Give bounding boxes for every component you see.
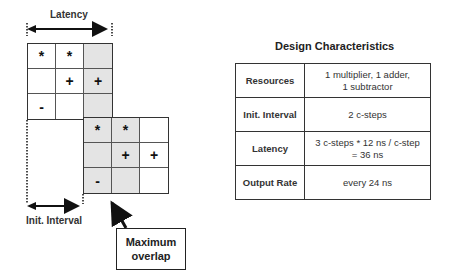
table-row: Output Rateevery 24 ns xyxy=(236,166,431,200)
grid-cell: * xyxy=(112,118,140,143)
table-row: Latency3 c-steps * 12 ns / c-step= 36 ns xyxy=(236,132,431,166)
grid-cell xyxy=(140,118,168,143)
grid-cell xyxy=(28,69,56,94)
latency-arrow-left-head xyxy=(27,25,36,33)
row-value: every 24 ns xyxy=(305,166,431,200)
grid-cell xyxy=(84,94,112,119)
table-row: Resources1 multiplier, 1 adder,1 subtrac… xyxy=(236,64,431,98)
callout-line-2: overlap xyxy=(117,249,185,263)
grid-cell: - xyxy=(84,168,112,193)
grid-cell: + xyxy=(56,69,84,94)
grid-cell: + xyxy=(112,143,140,168)
grid-cell: + xyxy=(140,143,168,168)
schedule-grid-1: **++- xyxy=(27,43,113,120)
grid-cell xyxy=(140,168,168,193)
table-title: Design Characteristics xyxy=(275,40,394,52)
row-label: Init. Interval xyxy=(236,98,305,132)
schedule-grid-2: **++- xyxy=(83,117,169,194)
callout-line-1: Maximum xyxy=(117,235,185,249)
callout-arrow xyxy=(112,203,126,228)
table-row: Init. Interval2 c-steps xyxy=(236,98,431,132)
row-value: 2 c-steps xyxy=(305,98,431,132)
grid-cell xyxy=(84,143,112,168)
row-label: Latency xyxy=(236,132,305,166)
row-label: Output Rate xyxy=(236,166,305,200)
grid-cell: * xyxy=(84,118,112,143)
init-interval-label: Init. Interval xyxy=(26,215,82,226)
grid-cell: * xyxy=(28,44,56,69)
grid-cell: * xyxy=(56,44,84,69)
design-characteristics-table: Resources1 multiplier, 1 adder,1 subtrac… xyxy=(235,63,431,200)
row-value: 3 c-steps * 12 ns / c-step= 36 ns xyxy=(305,132,431,166)
row-label: Resources xyxy=(236,64,305,98)
grid-cell: - xyxy=(28,94,56,119)
grid-cell xyxy=(56,94,84,119)
grid-cell: + xyxy=(84,69,112,94)
grid-cell xyxy=(112,168,140,193)
maximum-overlap-callout: Maximum overlap xyxy=(116,228,186,270)
row-value: 1 multiplier, 1 adder,1 subtractor xyxy=(305,64,431,98)
grid-cell xyxy=(84,44,112,69)
init-interval-arrow-left-head xyxy=(27,202,36,210)
